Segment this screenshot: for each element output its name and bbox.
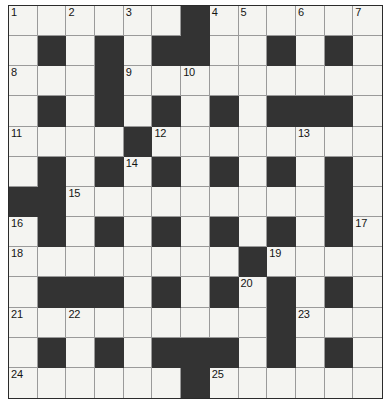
crossword-open-cell[interactable] (239, 127, 268, 157)
crossword-open-cell[interactable] (325, 127, 354, 157)
crossword-open-cell[interactable] (124, 217, 153, 247)
crossword-open-cell[interactable] (38, 308, 67, 338)
crossword-open-cell[interactable]: 6 (296, 6, 325, 36)
crossword-open-cell[interactable] (38, 6, 67, 36)
crossword-open-cell[interactable] (296, 338, 325, 368)
crossword-open-cell[interactable] (325, 6, 354, 36)
crossword-open-cell[interactable] (296, 217, 325, 247)
crossword-open-cell[interactable] (267, 187, 296, 217)
crossword-open-cell[interactable] (353, 277, 382, 307)
crossword-open-cell[interactable] (239, 308, 268, 338)
crossword-open-cell[interactable] (296, 66, 325, 96)
crossword-open-cell[interactable] (66, 127, 95, 157)
crossword-open-cell[interactable] (95, 368, 124, 398)
crossword-open-cell[interactable] (124, 36, 153, 66)
crossword-open-cell[interactable]: 20 (239, 277, 268, 307)
crossword-open-cell[interactable]: 17 (353, 217, 382, 247)
crossword-open-cell[interactable]: 11 (9, 127, 38, 157)
crossword-open-cell[interactable] (66, 157, 95, 187)
crossword-open-cell[interactable] (124, 308, 153, 338)
crossword-open-cell[interactable] (296, 36, 325, 66)
crossword-open-cell[interactable] (210, 187, 239, 217)
crossword-open-cell[interactable]: 2 (66, 6, 95, 36)
crossword-open-cell[interactable] (38, 66, 67, 96)
crossword-open-cell[interactable] (152, 308, 181, 338)
crossword-open-cell[interactable] (267, 6, 296, 36)
crossword-open-cell[interactable] (152, 368, 181, 398)
crossword-open-cell[interactable] (239, 187, 268, 217)
crossword-open-cell[interactable] (66, 66, 95, 96)
crossword-open-cell[interactable] (181, 157, 210, 187)
crossword-open-cell[interactable] (239, 66, 268, 96)
crossword-open-cell[interactable] (152, 247, 181, 277)
crossword-open-cell[interactable] (296, 187, 325, 217)
crossword-open-cell[interactable] (353, 66, 382, 96)
crossword-open-cell[interactable]: 14 (124, 157, 153, 187)
crossword-open-cell[interactable] (239, 96, 268, 126)
crossword-open-cell[interactable] (267, 368, 296, 398)
crossword-open-cell[interactable]: 24 (9, 368, 38, 398)
crossword-open-cell[interactable]: 25 (210, 368, 239, 398)
crossword-open-cell[interactable] (66, 338, 95, 368)
crossword-open-cell[interactable] (296, 247, 325, 277)
crossword-open-cell[interactable]: 1 (9, 6, 38, 36)
crossword-open-cell[interactable] (181, 308, 210, 338)
crossword-open-cell[interactable] (95, 247, 124, 277)
crossword-open-cell[interactable] (210, 308, 239, 338)
crossword-open-cell[interactable] (181, 187, 210, 217)
crossword-open-cell[interactable] (239, 36, 268, 66)
crossword-open-cell[interactable] (181, 217, 210, 247)
crossword-open-cell[interactable] (181, 277, 210, 307)
crossword-open-cell[interactable] (66, 247, 95, 277)
crossword-open-cell[interactable]: 7 (353, 6, 382, 36)
crossword-open-cell[interactable] (325, 368, 354, 398)
crossword-open-cell[interactable] (210, 127, 239, 157)
crossword-open-cell[interactable] (325, 66, 354, 96)
crossword-open-cell[interactable] (66, 96, 95, 126)
crossword-open-cell[interactable] (296, 368, 325, 398)
crossword-open-cell[interactable] (325, 308, 354, 338)
crossword-open-cell[interactable] (353, 96, 382, 126)
crossword-open-cell[interactable] (210, 36, 239, 66)
crossword-open-cell[interactable] (95, 187, 124, 217)
crossword-open-cell[interactable] (353, 157, 382, 187)
crossword-open-cell[interactable] (124, 338, 153, 368)
crossword-open-cell[interactable] (210, 66, 239, 96)
crossword-open-cell[interactable] (239, 338, 268, 368)
crossword-open-cell[interactable] (239, 217, 268, 247)
crossword-open-cell[interactable] (9, 277, 38, 307)
crossword-open-cell[interactable]: 15 (66, 187, 95, 217)
crossword-grid[interactable]: 1234567891011121314151617181920212223242… (9, 6, 382, 398)
crossword-open-cell[interactable]: 3 (124, 6, 153, 36)
crossword-open-cell[interactable] (152, 6, 181, 36)
crossword-open-cell[interactable] (124, 247, 153, 277)
crossword-open-cell[interactable] (353, 127, 382, 157)
crossword-open-cell[interactable] (152, 187, 181, 217)
crossword-open-cell[interactable] (353, 368, 382, 398)
crossword-open-cell[interactable] (353, 187, 382, 217)
crossword-open-cell[interactable] (296, 277, 325, 307)
crossword-open-cell[interactable] (124, 277, 153, 307)
crossword-open-cell[interactable] (353, 36, 382, 66)
crossword-open-cell[interactable]: 13 (296, 127, 325, 157)
crossword-open-cell[interactable]: 16 (9, 217, 38, 247)
crossword-open-cell[interactable] (267, 127, 296, 157)
crossword-open-cell[interactable] (353, 308, 382, 338)
crossword-open-cell[interactable]: 12 (152, 127, 181, 157)
crossword-open-cell[interactable] (325, 247, 354, 277)
crossword-open-cell[interactable]: 4 (210, 6, 239, 36)
crossword-open-cell[interactable]: 8 (9, 66, 38, 96)
crossword-open-cell[interactable]: 21 (9, 308, 38, 338)
crossword-open-cell[interactable] (9, 96, 38, 126)
crossword-open-cell[interactable] (9, 338, 38, 368)
crossword-open-cell[interactable]: 22 (66, 308, 95, 338)
crossword-open-cell[interactable] (9, 157, 38, 187)
crossword-open-cell[interactable] (353, 247, 382, 277)
crossword-open-cell[interactable] (38, 247, 67, 277)
crossword-open-cell[interactable] (95, 127, 124, 157)
crossword-open-cell[interactable] (181, 96, 210, 126)
crossword-open-cell[interactable] (66, 217, 95, 247)
crossword-open-cell[interactable] (124, 187, 153, 217)
crossword-open-cell[interactable] (124, 368, 153, 398)
crossword-open-cell[interactable]: 18 (9, 247, 38, 277)
